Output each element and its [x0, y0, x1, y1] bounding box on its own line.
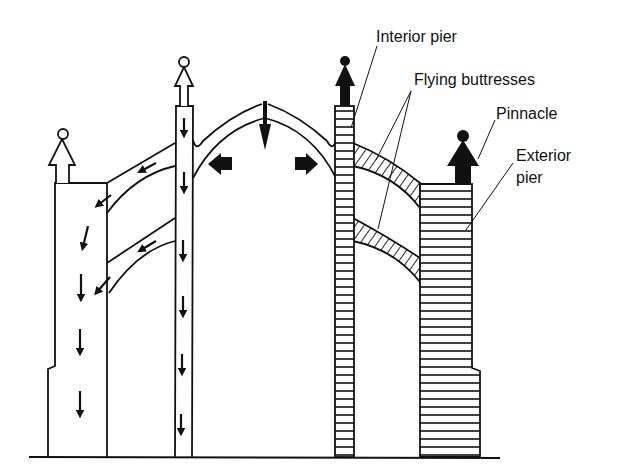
label-exterior-pier-line1: Exterior	[516, 147, 572, 164]
left-interior-column	[175, 106, 193, 457]
exterior-pier	[420, 184, 480, 457]
label-flying-buttresses: Flying buttresses	[414, 71, 535, 88]
label-interior-pier: Interior pier	[376, 28, 458, 45]
right-upper-flying-buttress	[353, 143, 420, 208]
left-lower-flying-buttress	[107, 218, 175, 293]
right-thrust-arrow-icon	[295, 153, 318, 175]
gothic-buttress-diagram: Interior pier Flying buttresses Pinnacle…	[0, 0, 618, 475]
pinnacle-icon	[447, 130, 479, 184]
label-pinnacle: Pinnacle	[496, 105, 557, 122]
force-arrow-icon	[141, 163, 156, 171]
force-arrow-icon	[83, 226, 88, 247]
down-thrust-arrow-icon	[259, 101, 271, 150]
left-exterior-pier	[48, 183, 107, 457]
interior-pier	[335, 106, 354, 457]
left-pinnacle-icon	[49, 129, 75, 183]
force-arrow-icon	[97, 277, 110, 292]
force-arrow-icon	[98, 195, 111, 205]
interior-pier-pinnacle-icon	[335, 56, 355, 106]
left-force-arrows	[80, 118, 184, 432]
right-lower-flying-buttress	[353, 218, 420, 282]
left-column-pinnacle-icon	[175, 57, 193, 106]
left-thrust-arrow-icon	[208, 153, 232, 175]
left-upper-flying-buttress	[107, 143, 175, 213]
label-exterior-pier-line2: pier	[516, 169, 543, 186]
